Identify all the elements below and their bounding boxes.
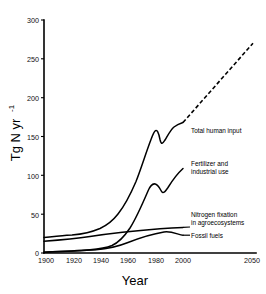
x-tick-label: 1900 (38, 256, 54, 265)
y-axis-title-text: Tg N yr (8, 118, 23, 161)
series-line-total-human-input-projection (183, 43, 253, 122)
y-tick-label: 200 (27, 94, 39, 103)
series-line-total-human-input (44, 123, 183, 238)
series-line-nitrogen-fixation (44, 227, 183, 241)
annotation-fossil-fuels: Fossil fuels (191, 232, 223, 239)
chart-figure: 300 250 200 150 100 50 0 1900 1920 1940 … (0, 0, 266, 294)
x-tick-label: 1920 (66, 256, 82, 265)
chart-canvas: 300 250 200 150 100 50 0 1900 1920 1940 … (0, 0, 266, 294)
y-tick-label: 150 (27, 133, 39, 142)
annotation-fertilizer-line2: industrial use (191, 168, 229, 175)
x-axis-title: Year (122, 273, 149, 288)
annotation-nitrogen-fixation-line1: Nitrogen fixation (191, 211, 238, 219)
y-tick-label: 50 (31, 211, 39, 220)
x-tick-label: 1940 (93, 256, 109, 265)
y-tick-label: 250 (27, 55, 39, 64)
series-annotations: Total human input Fertilizer and industr… (191, 127, 244, 239)
y-axis-title-superscript: -1 (7, 104, 16, 112)
annotation-fertilizer-line1: Fertilizer and (191, 160, 228, 167)
annotation-total-human-input: Total human input (191, 127, 242, 135)
y-axis-title: Tg N yr -1 (7, 104, 23, 161)
y-tick-label: 100 (27, 172, 39, 181)
annotation-nitrogen-fixation-line2: in agroecosystems (191, 219, 244, 227)
annotation-leaders (183, 227, 190, 235)
y-axis-tick-labels: 300 250 200 150 100 50 0 (27, 16, 39, 258)
x-tick-label: 1980 (148, 256, 164, 265)
x-tick-label: 2000 (175, 256, 191, 265)
y-tick-label: 300 (27, 16, 39, 25)
x-tick-label: 1960 (120, 256, 136, 265)
x-tick-label: 2050 (244, 256, 260, 265)
x-axis-tick-labels: 1900 1920 1940 1960 1980 2000 2050 (38, 256, 260, 265)
